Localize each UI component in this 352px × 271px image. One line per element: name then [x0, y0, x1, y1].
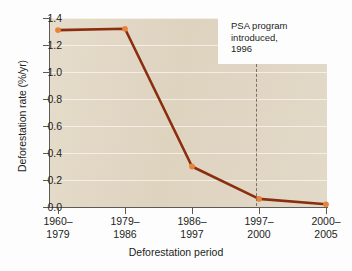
psa-program-dashed-line: [256, 64, 257, 206]
data-point: [323, 201, 329, 207]
annotation-label: PSA program introduced, 1996: [231, 20, 288, 55]
data-point: [189, 164, 195, 170]
annotation-line-2: introduced,: [231, 32, 288, 44]
annotation-line-3: 1996: [231, 43, 288, 55]
data-point: [122, 26, 128, 32]
chart-figure: Deforestation rate (%/yr) 1.4 1.2 1.0 0.…: [0, 0, 352, 271]
annotation-line-1: PSA program: [231, 20, 288, 32]
data-point: [55, 27, 61, 33]
